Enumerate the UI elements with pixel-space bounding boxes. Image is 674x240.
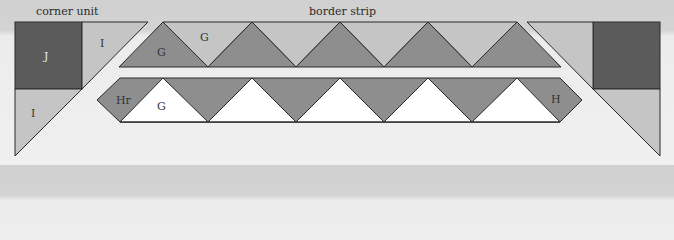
- heading-border-strip: border strip: [309, 5, 376, 18]
- top-border-strip: G G: [119, 22, 561, 67]
- label-g-white: G: [157, 100, 166, 113]
- right-corner-bottom-triangle: [593, 89, 660, 156]
- label-i-bottom: I: [31, 107, 35, 120]
- label-j: J: [43, 50, 48, 63]
- left-corner-square-j: [15, 22, 82, 89]
- bottom-border-strip: Hr G H: [97, 78, 582, 122]
- quilt-border-diagram: corner unit border strip J I I G G: [0, 0, 674, 165]
- label-g-light: G: [200, 31, 209, 44]
- right-corner-square: [593, 22, 660, 89]
- label-hr: Hr: [116, 94, 132, 107]
- label-g-dark: G: [157, 46, 166, 59]
- heading-corner-unit: corner unit: [36, 5, 99, 18]
- label-h: H: [551, 93, 561, 106]
- left-corner-bottom-triangle-i: [15, 89, 82, 156]
- label-i-top: I: [100, 37, 104, 50]
